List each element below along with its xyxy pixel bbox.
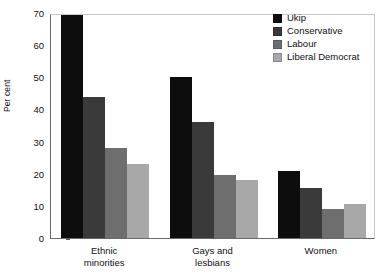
bar [83,97,105,238]
y-tick-label: 40 [22,105,44,115]
bar [214,175,236,238]
legend-swatch-icon [273,53,282,62]
bar [322,209,344,238]
x-group-label: Women [266,245,376,257]
bar [170,77,192,238]
legend-swatch-icon [273,27,282,36]
bar-chart-figure: Per cent 010203040506070 Ethnic minoriti… [0,0,389,278]
legend-label: Labour [287,39,317,49]
y-tick-label: 20 [22,170,44,180]
y-tick-label: 50 [22,73,44,83]
legend-item: Liberal Democrat [273,51,385,64]
x-group-label: Ethnic minorities [49,245,159,268]
y-tick-label: 60 [22,41,44,51]
bar [278,171,300,239]
legend-item: Conservative [273,25,385,38]
bar [236,180,258,238]
y-tick-label: 30 [22,138,44,148]
y-axis-title: Per cent [2,42,18,112]
bar [61,14,83,238]
bar [127,164,149,238]
legend-item: Labour [273,38,385,51]
chart-legend: UkipConservativeLabourLiberal Democrat [273,12,385,64]
bar [344,204,366,238]
y-tick-label: 10 [22,202,44,212]
bar [105,148,127,238]
y-tick-mark [66,239,70,240]
legend-label: Liberal Democrat [287,52,359,62]
legend-label: Ukip [287,13,306,23]
y-axis-tick-labels: 010203040506070 [20,0,44,278]
y-tick-label: 0 [22,234,44,244]
bar [300,188,322,238]
legend-label: Conservative [287,26,342,36]
y-tick-label: 70 [22,9,44,19]
legend-item: Ukip [273,12,385,25]
bar [192,122,214,238]
x-group-label: Gays and lesbians [158,245,268,268]
legend-swatch-icon [273,40,282,49]
legend-swatch-icon [273,14,282,23]
